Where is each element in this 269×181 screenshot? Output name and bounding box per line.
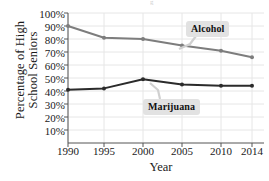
data-point-marijuana	[102, 86, 106, 90]
callout-leader-lines	[150, 36, 196, 99]
data-point-alcohol	[250, 55, 254, 59]
data-point-marijuana	[250, 84, 254, 88]
gridlines	[68, 13, 264, 143]
series-label-alcohol: Alcohol	[186, 21, 229, 37]
data-point-alcohol	[219, 49, 223, 53]
chart-figure: g Percentage of High School Seniors 100%…	[0, 0, 269, 181]
data-point-marijuana	[219, 84, 223, 88]
data-point-marijuana	[66, 88, 70, 92]
data-point-alcohol	[66, 24, 70, 28]
series-label-marijuana: Marijuana	[143, 99, 200, 115]
data-point-alcohol	[141, 37, 145, 41]
series-line-marijuana	[68, 79, 252, 89]
data-point-alcohol	[102, 36, 106, 40]
data-point-marijuana	[180, 83, 184, 87]
data-point-marijuana	[141, 77, 145, 81]
